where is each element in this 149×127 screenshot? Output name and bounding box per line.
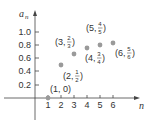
- point-label: (6, 5 6 ): [115, 46, 135, 60]
- svg-text:4: 4: [98, 21, 102, 27]
- svg-text:): ): [80, 71, 83, 81]
- point-label: (4, 3 4 ): [85, 51, 105, 65]
- y-axis-label-subscript: n: [25, 13, 29, 21]
- svg-text:): ): [132, 48, 135, 58]
- svg-text:): ): [103, 23, 106, 33]
- svg-text:3: 3: [97, 51, 101, 57]
- y-tick-label: 0.2: [18, 80, 31, 90]
- y-tick-label: 0.6: [18, 53, 31, 63]
- x-tick-label: 4: [84, 100, 89, 110]
- svg-text:(6,: (6,: [115, 48, 126, 58]
- x-tick-label: 1: [45, 100, 50, 110]
- svg-text:6: 6: [127, 54, 131, 60]
- data-point: [111, 41, 116, 46]
- svg-text:): ): [72, 37, 75, 47]
- svg-text:5: 5: [127, 46, 131, 52]
- data-point: [98, 43, 103, 48]
- svg-text:(5,: (5,: [86, 23, 97, 33]
- x-tick-label: 6: [110, 100, 115, 110]
- point-label: (1, 0): [50, 84, 71, 94]
- svg-text:3: 3: [67, 43, 71, 49]
- svg-text:(4,: (4,: [85, 53, 96, 63]
- x-tick-label: 3: [71, 100, 76, 110]
- y-axis-label: a: [19, 8, 24, 19]
- sequence-scatter-chart: 1 2 3 4 5 6 1.0 0.8 0.6 0.4 0.2 a n n (1…: [0, 0, 149, 127]
- y-axis-arrow-icon: [33, 10, 37, 16]
- data-point: [72, 52, 77, 57]
- x-axis-label: n: [139, 100, 144, 111]
- svg-text:1: 1: [75, 69, 79, 75]
- svg-text:(3,: (3,: [55, 37, 66, 47]
- data-point: [85, 46, 90, 51]
- data-point: [59, 63, 64, 68]
- point-label: (2, 1 2 ): [63, 69, 83, 83]
- point-label: (5, 4 5 ): [86, 21, 106, 35]
- svg-text:): ): [102, 53, 105, 63]
- svg-text:(2,: (2,: [63, 71, 74, 81]
- data-point: [46, 96, 51, 101]
- svg-text:2: 2: [67, 35, 71, 41]
- x-ticks: [48, 95, 113, 98]
- svg-text:2: 2: [75, 77, 79, 83]
- x-tick-label: 2: [58, 100, 63, 110]
- y-tick-label: 0.8: [18, 40, 31, 50]
- point-label: (3, 2 3 ): [55, 35, 75, 49]
- x-tick-label: 5: [97, 100, 102, 110]
- y-ticks: [35, 32, 39, 85]
- y-tick-label: 0.4: [18, 66, 31, 76]
- svg-text:5: 5: [98, 29, 102, 35]
- svg-text:4: 4: [97, 59, 101, 65]
- y-tick-label: 1.0: [18, 27, 31, 37]
